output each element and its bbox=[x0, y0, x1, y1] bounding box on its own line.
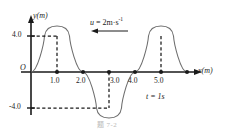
x-axis-label: x(m) bbox=[198, 67, 213, 75]
velocity-arrow-icon bbox=[91, 29, 128, 34]
x-axis bbox=[21, 69, 202, 75]
x-tick-label-1: 1.0 bbox=[50, 77, 59, 85]
marker-6 bbox=[185, 70, 189, 74]
figure-caption: 题 7-2 bbox=[97, 122, 117, 129]
marker-1 bbox=[55, 70, 59, 74]
velocity-label: u = 2m·s-1 bbox=[90, 17, 123, 27]
marker-2 bbox=[81, 70, 85, 74]
marker-4 bbox=[133, 70, 137, 74]
y-tick-label-4: 4.0 bbox=[12, 31, 21, 39]
origin-label: O bbox=[20, 64, 26, 72]
velocity-value: = 2m·s bbox=[96, 18, 119, 27]
x-tick-label-5: 5.0 bbox=[154, 77, 163, 85]
x-tick-label-4: 4.0 bbox=[128, 77, 137, 85]
y-axis-label: y(m) bbox=[33, 12, 48, 20]
x-tick-label-3: 3.0 bbox=[110, 77, 119, 85]
snapshot-time-label: t = 1s bbox=[146, 93, 165, 101]
marker-3 bbox=[107, 70, 111, 74]
velocity-exponent: -1 bbox=[119, 16, 124, 22]
wave-figure: y(m) x(m) O 4.0 -4.0 1.0 2.0 3.0 4.0 5.0… bbox=[0, 0, 225, 137]
x-tick-label-2: 2.0 bbox=[76, 77, 85, 85]
velocity-symbol: u bbox=[90, 18, 94, 27]
y-tick-label-neg4: -4.0 bbox=[9, 103, 21, 111]
y-axis bbox=[28, 15, 34, 115]
marker-5 bbox=[159, 70, 163, 74]
